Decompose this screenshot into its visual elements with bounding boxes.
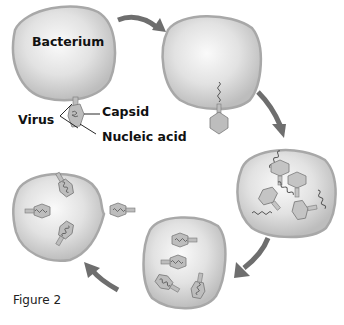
stage-5-bacterium — [13, 170, 135, 261]
label-capsid: Capsid — [102, 104, 149, 119]
stage-2-bacterium — [163, 16, 261, 134]
label-nucleic-acid: Nucleic acid — [102, 129, 187, 144]
arrow-1-to-2 — [118, 17, 158, 28]
arrow-4-to-5 — [92, 270, 118, 290]
arrow-3-to-4 — [244, 238, 268, 268]
arrow-2-to-3 — [258, 92, 280, 125]
stage-3-bacterium — [237, 150, 335, 237]
label-virus: Virus — [18, 112, 54, 127]
stage-4-bacterium — [144, 217, 226, 308]
figure-caption: Figure 2 — [13, 293, 61, 307]
label-bacterium: Bacterium — [32, 34, 104, 49]
